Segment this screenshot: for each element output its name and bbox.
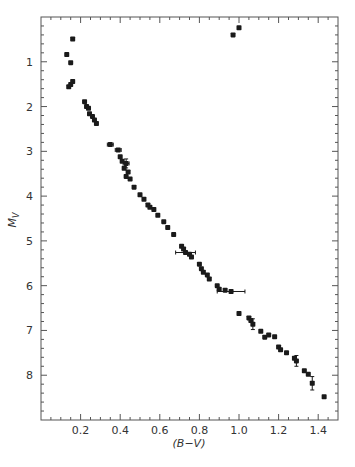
data-point (310, 381, 315, 386)
x-axis-label: (B−V) (173, 437, 206, 450)
x-tick-label: 0.2 (72, 424, 90, 437)
x-tick-label: 1.4 (309, 424, 327, 437)
data-point (161, 219, 166, 224)
data-point (294, 358, 299, 363)
data-point (272, 334, 277, 339)
data-point (322, 394, 327, 399)
y-axis-label-sub: V (12, 212, 21, 218)
data-point (155, 213, 160, 218)
y-tick-label: 4 (26, 190, 33, 203)
data-point (217, 287, 222, 292)
y-tick-label: 8 (26, 369, 33, 382)
data-point (258, 329, 263, 334)
y-tick-label: 6 (26, 280, 33, 293)
data-point (94, 121, 99, 126)
x-tick-label: 1.0 (230, 424, 248, 437)
data-point (171, 232, 176, 237)
y-tick-label: 5 (26, 235, 33, 248)
x-tick-label: 0.8 (191, 424, 209, 437)
data-point (207, 276, 212, 281)
hr-diagram-chart: 0.20.40.60.81.01.21.4 12345678 (B−V) MV (0, 0, 355, 467)
data-point (132, 185, 137, 190)
data-point (70, 36, 75, 41)
data-point (231, 32, 236, 37)
data-point (86, 106, 91, 111)
data-point (223, 288, 228, 293)
x-tick-label: 0.4 (111, 424, 129, 437)
data-point (68, 60, 73, 65)
data-point (82, 99, 87, 104)
data-point (278, 347, 283, 352)
data-point (250, 322, 255, 327)
data-point (306, 372, 311, 377)
y-tick-label: 1 (26, 56, 33, 69)
data-point (138, 192, 143, 197)
data-point (229, 289, 234, 294)
data-point (124, 161, 129, 166)
data-point (64, 52, 69, 57)
y-tick-label: 2 (26, 101, 33, 114)
y-axis-label-main: M (6, 217, 19, 227)
data-point (151, 207, 156, 212)
y-tick-label: 7 (26, 324, 33, 337)
data-point (128, 177, 133, 182)
data-point (197, 262, 202, 267)
data-point (116, 147, 121, 152)
data-point (66, 84, 71, 89)
data-point (118, 154, 123, 159)
error-bars (107, 143, 314, 390)
x-tick-label: 0.6 (151, 424, 169, 437)
data-points (64, 25, 326, 399)
data-point (266, 332, 271, 337)
y-axis-label: MV (6, 212, 21, 228)
x-axis-ticks: 0.20.40.60.81.01.21.4 (51, 17, 328, 437)
data-point (189, 255, 194, 260)
data-point (108, 142, 113, 147)
data-point (165, 225, 170, 230)
x-tick-label: 1.2 (270, 424, 288, 437)
data-point (237, 25, 242, 30)
data-point (141, 197, 146, 202)
data-point (126, 169, 131, 174)
data-point (284, 350, 289, 355)
y-tick-label: 3 (26, 145, 33, 158)
data-point (237, 311, 242, 316)
